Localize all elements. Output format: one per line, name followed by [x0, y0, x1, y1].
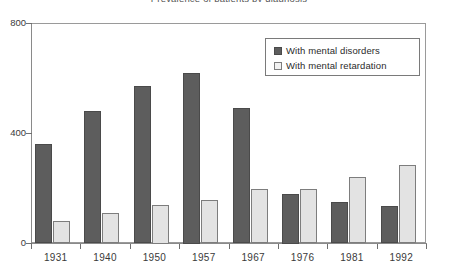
- bar-1950-series-0: [134, 86, 151, 243]
- x-axis-tick: [130, 244, 131, 249]
- legend-item-with-mental-retardation: With mental retardation: [274, 58, 413, 73]
- x-axis-tick: [327, 244, 328, 249]
- bar-1931-series-1: [53, 221, 70, 243]
- bar-chart: Prevalence of patients by diagnosis 0400…: [0, 0, 458, 279]
- bar-1976-series-0: [282, 194, 299, 244]
- bar-1940-series-1: [102, 213, 119, 243]
- x-axis-tick: [377, 244, 378, 249]
- bar-1940-series-0: [84, 111, 101, 243]
- x-axis-tick: [229, 244, 230, 249]
- bar-1967-series-0: [233, 108, 250, 243]
- legend-swatch-icon-series-0: [274, 47, 282, 55]
- bar-1992-series-1: [399, 165, 416, 243]
- chart-legend: With mental disorders With mental retard…: [265, 38, 420, 76]
- bar-1976-series-1: [300, 189, 317, 243]
- x-axis-tick: [426, 244, 427, 249]
- legend-label-series-1: With mental retardation: [286, 60, 387, 71]
- bar-1957-series-0: [183, 73, 200, 244]
- bar-1950-series-1: [152, 205, 169, 244]
- y-axis-tick: [26, 133, 32, 134]
- x-axis-tick: [31, 244, 32, 249]
- y-axis-tick: [26, 23, 32, 24]
- chart-title: Prevalence of patients by diagnosis: [0, 0, 458, 2]
- bar-1931-series-0: [35, 144, 52, 243]
- y-axis-tick-label: 400: [0, 128, 26, 138]
- x-axis-tick: [80, 244, 81, 249]
- bar-1992-series-0: [381, 206, 398, 243]
- bar-1981-series-0: [331, 202, 348, 243]
- x-axis-tick: [179, 244, 180, 249]
- x-axis-tick-label: 1992: [371, 252, 431, 263]
- legend-label-series-0: With mental disorders: [286, 45, 380, 56]
- y-axis-tick-label: 0: [0, 238, 26, 248]
- legend-swatch-icon-series-1: [274, 62, 282, 70]
- bar-1981-series-1: [349, 177, 366, 243]
- x-axis-tick: [278, 244, 279, 249]
- y-axis-tick-label: 800: [0, 18, 26, 28]
- bar-1957-series-1: [201, 200, 218, 243]
- legend-item-with-mental-disorders: With mental disorders: [274, 43, 413, 58]
- bar-1967-series-1: [251, 189, 268, 243]
